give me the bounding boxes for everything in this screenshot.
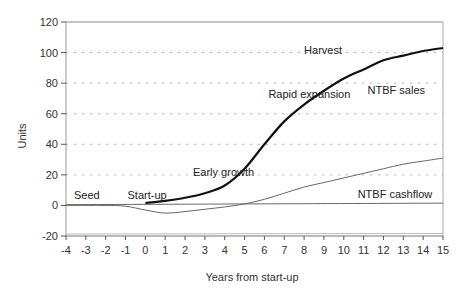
y-tick-label: 80 xyxy=(46,77,58,89)
x-tick-label: 2 xyxy=(182,244,188,256)
x-tick-label: 13 xyxy=(397,244,409,256)
tick-labels: -20020406080100120-4-3-2-101234567891011… xyxy=(40,16,449,256)
y-tick-label: 60 xyxy=(46,108,58,120)
zero-baseline-line xyxy=(66,203,443,205)
x-axis-shadow xyxy=(66,234,443,235)
x-tick-label: -3 xyxy=(81,244,91,256)
x-tick-label: -4 xyxy=(61,244,71,256)
y-tick-label: -20 xyxy=(42,230,58,242)
annotation-harvest: Harvest xyxy=(304,44,342,56)
x-tick-label: 4 xyxy=(222,244,228,256)
annotation-ntbf-cashflow: NTBF cashflow xyxy=(358,188,433,200)
annotation-startup: Start-up xyxy=(128,189,167,201)
x-tick-label: 9 xyxy=(321,244,327,256)
x-tick-label: 8 xyxy=(301,244,307,256)
annotations: SeedStart-upEarly growthRapid expansionH… xyxy=(74,44,432,201)
x-axis-label: Years from start-up xyxy=(205,271,298,283)
annotation-seed: Seed xyxy=(74,189,100,201)
y-tick-label: 120 xyxy=(40,16,58,28)
x-tick-label: 5 xyxy=(242,244,248,256)
annotation-early-growth: Early growth xyxy=(193,166,254,178)
x-tick-label: 1 xyxy=(162,244,168,256)
x-tick-label: 11 xyxy=(358,244,369,256)
x-tick-label: 3 xyxy=(202,244,208,256)
x-tick-label: 12 xyxy=(377,244,389,256)
y-tick-label: 40 xyxy=(46,138,58,150)
x-tick-label: 6 xyxy=(261,244,267,256)
x-tick-label: 10 xyxy=(338,244,350,256)
x-tick-label: 0 xyxy=(142,244,148,256)
y-tick-label: 0 xyxy=(52,199,58,211)
x-tick-label: 7 xyxy=(281,244,287,256)
ntbf-sales-line xyxy=(145,48,443,203)
chart: -20020406080100120-4-3-2-101234567891011… xyxy=(0,0,468,290)
x-tick-label: -2 xyxy=(101,244,111,256)
x-tick-label: -1 xyxy=(121,244,131,256)
annotation-ntbf-sales: NTBF sales xyxy=(368,84,426,96)
x-tick-label: 15 xyxy=(437,244,449,256)
x-tick-label: 14 xyxy=(417,244,429,256)
y-axis-label: Units xyxy=(16,123,28,149)
y-tick-label: 100 xyxy=(40,47,58,59)
y-tick-label: 20 xyxy=(46,169,58,181)
annotation-rapid-expansion: Rapid expansion xyxy=(268,88,350,100)
